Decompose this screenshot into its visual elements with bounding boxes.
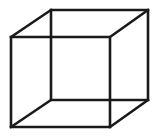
cube-canvas bbox=[0, 0, 161, 138]
necker-cube-figure bbox=[0, 0, 161, 138]
